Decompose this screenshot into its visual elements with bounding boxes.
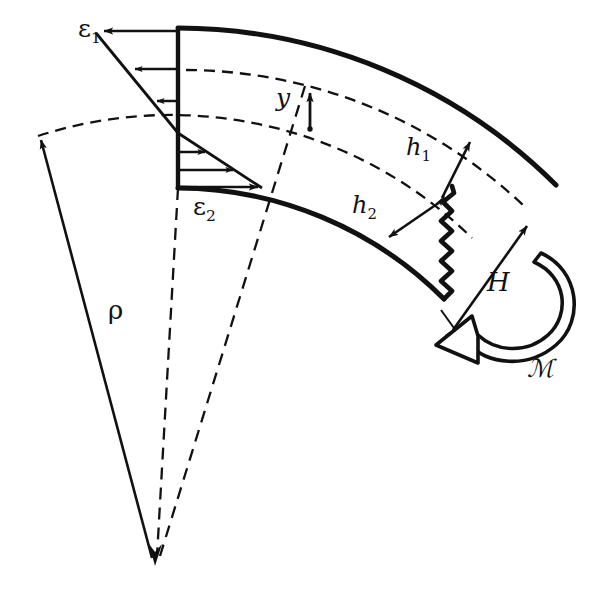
label-epsilon-2: ε2 (193, 192, 216, 225)
label-h-2: h2 (352, 191, 377, 223)
label-moment: ℳ (527, 354, 554, 383)
radius-rho-arrow (41, 140, 152, 558)
curved-beam-diagram (0, 0, 598, 595)
strain-arrows-compression (104, 31, 178, 101)
dimension-h1 (442, 142, 470, 198)
label-epsilon-1: ε1 (78, 14, 101, 47)
label-y: y (276, 83, 290, 112)
label-total-height: H (487, 267, 510, 297)
beam-inner-edge (178, 188, 444, 299)
strain-arrows-tension (178, 152, 258, 187)
section-break-zigzag (441, 186, 454, 299)
radial-line-right (160, 86, 305, 556)
dimension-H (441, 226, 527, 342)
dimension-h2 (389, 202, 440, 237)
label-rho: ρ (108, 295, 123, 325)
radial-line-left (157, 188, 178, 556)
beam-outline (178, 28, 556, 299)
label-h-1: h1 (406, 133, 431, 165)
upper-fiber-arc (186, 70, 524, 206)
